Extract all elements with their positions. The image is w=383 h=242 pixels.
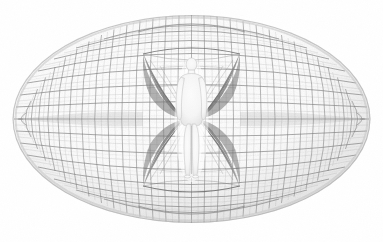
torus-field-illustration: Toroidal Energy Field with Human Figure … (0, 0, 383, 242)
torus-artwork-canvas (0, 0, 383, 242)
global-grain (0, 0, 383, 242)
